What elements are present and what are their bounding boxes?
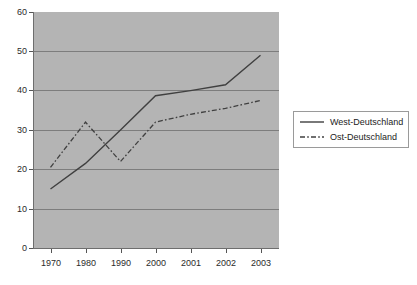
y-axis-tick — [29, 130, 33, 131]
x-axis-label: 2002 — [206, 258, 246, 268]
x-axis-label: 1990 — [101, 258, 141, 268]
gridline — [34, 51, 279, 52]
y-axis-label: 20 — [3, 165, 27, 174]
line-chart: 60 50 40 30 20 10 0 1970 1980 1990 2000 … — [0, 0, 417, 285]
legend-label: Ost-Deutschland — [330, 132, 397, 142]
gridline — [34, 90, 279, 91]
y-axis-tick — [29, 12, 33, 13]
gridline — [34, 169, 279, 170]
x-axis-label: 1970 — [31, 258, 71, 268]
plot-area — [33, 12, 279, 249]
x-axis-tick — [121, 249, 122, 253]
x-axis-tick — [261, 249, 262, 253]
gridline — [34, 209, 279, 210]
y-axis-tick — [29, 51, 33, 52]
y-axis-label: 10 — [3, 205, 27, 214]
y-axis-tick — [29, 209, 33, 210]
y-axis-tick — [29, 90, 33, 91]
x-axis-tick — [51, 249, 52, 253]
legend-label: West-Deutschland — [330, 117, 403, 127]
x-axis-tick — [156, 249, 157, 253]
gridline — [34, 130, 279, 131]
x-axis-tick — [191, 249, 192, 253]
x-axis-label: 2001 — [171, 258, 211, 268]
x-axis-label: 2000 — [136, 258, 176, 268]
y-axis-tick — [29, 248, 33, 249]
x-axis-tick — [86, 249, 87, 253]
y-axis-tick — [29, 169, 33, 170]
y-axis-label: 0 — [3, 244, 27, 253]
y-axis-label: 40 — [3, 86, 27, 95]
legend-item-ost-deutschland: Ost-Deutschland — [299, 130, 397, 144]
x-axis-label: 2003 — [241, 258, 281, 268]
y-axis-label: 50 — [3, 47, 27, 56]
legend-swatch-dash-dot-line-icon — [299, 132, 325, 142]
x-axis-label: 1980 — [66, 258, 106, 268]
y-axis-label: 30 — [3, 126, 27, 135]
legend-item-west-deutschland: West-Deutschland — [299, 115, 403, 129]
y-axis-label: 60 — [3, 8, 27, 17]
chart-legend: West-Deutschland Ost-Deutschland — [293, 111, 409, 148]
x-axis-tick — [226, 249, 227, 253]
legend-swatch-solid-line-icon — [299, 117, 325, 127]
